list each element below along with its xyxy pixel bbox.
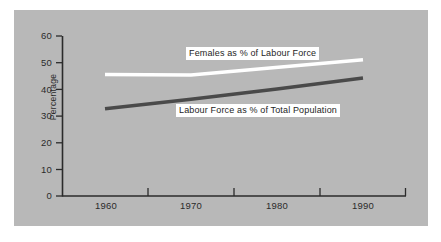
- y-tick-label-0: 0: [26, 190, 52, 201]
- series-label-labour-force: Labour Force as % of Total Population: [176, 104, 340, 117]
- x-tick-label-1980: 1980: [257, 200, 297, 211]
- series-label-females: Females as % of Labour Force: [186, 47, 319, 60]
- x-tick-label-1990: 1990: [343, 200, 383, 211]
- y-tick-label-20: 20: [26, 137, 52, 148]
- x-tick-label-1970: 1970: [171, 200, 211, 211]
- y-tick-label-10: 10: [26, 164, 52, 175]
- y-axis-title: Percentage: [48, 62, 58, 132]
- x-axis-ticks: [148, 188, 406, 196]
- x-tick-label-1960: 1960: [86, 200, 126, 211]
- y-tick-label-60: 60: [26, 30, 52, 41]
- chart-figure: 60 50 40 30 20 10 0 1960 1970 1980 1990 …: [0, 0, 441, 242]
- series-line-females: [105, 60, 363, 75]
